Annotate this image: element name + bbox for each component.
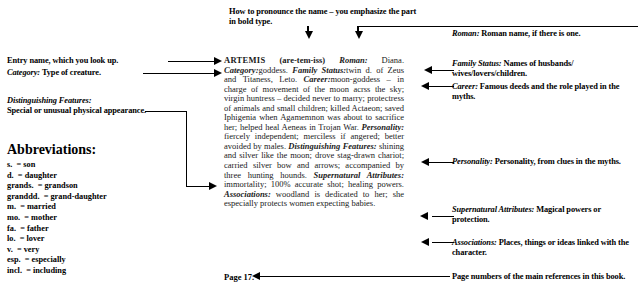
entry-pronunciation: (are-tem-iss) [280, 55, 326, 65]
entry-family-label: Family Status: [292, 65, 346, 75]
annotation-distinguishing-text: Special or unusual physical appearance. [7, 106, 157, 116]
annotation-distinguishing: Distinguishing Features: [7, 96, 207, 106]
leader-supernatural [432, 216, 454, 217]
abbreviations-title: Abbreviations: [7, 142, 96, 158]
list-item: s. = son [7, 160, 107, 171]
list-item: grands. = grandson [7, 181, 107, 192]
leader-roman-horizontal [357, 26, 638, 27]
leader-associations [432, 242, 454, 243]
list-item: m. = married [7, 202, 107, 213]
entry-supernatural-value: immortality; 100% accurate shot; healing… [224, 179, 404, 189]
annotation-personality-label: Personality: [452, 157, 493, 166]
arrow-right-entry-name [214, 57, 222, 65]
list-item: d. = daughter [7, 171, 107, 182]
list-item: fa. = father [7, 224, 107, 235]
leader-entry-name [168, 61, 215, 62]
entry-supernatural-label: Supernatural Attributes: [314, 170, 404, 180]
entry-distinguishing-label: Distinguishing Features: [288, 141, 376, 151]
annotation-roman: Roman: Roman name, if there is one. [452, 29, 638, 39]
arrow-left-family-status [424, 66, 432, 74]
annotation-family-label: Family Status: [452, 59, 502, 68]
diagram-page: How to pronounce the name – you emphasiz… [0, 0, 638, 306]
list-item: granddd. = grand-daughter [7, 192, 107, 203]
entry-page-number: Page 17. [224, 272, 254, 282]
leader-distinguishing-vertical [186, 111, 187, 187]
annotation-pronounce: How to pronounce the name – you emphasiz… [229, 7, 419, 26]
list-item: incl. = including [7, 266, 107, 277]
annotation-supernatural-label: Supernatural Attributes: [452, 205, 534, 214]
entry-category-value: goddess. [258, 65, 288, 75]
entry-associations-label: Associations: [224, 189, 271, 199]
arrow-right-category [214, 69, 222, 77]
arrow-left-associations [421, 238, 429, 246]
entry-career-label: Career: [304, 74, 331, 84]
arrow-left-personality [421, 158, 429, 166]
leader-category [143, 73, 215, 74]
leader-personality [429, 162, 454, 163]
arrow-left-career [421, 82, 429, 90]
annotation-personality: Personality: Personality, from clues in … [452, 157, 638, 167]
entry-roman-value: Diana. [368, 55, 404, 65]
annotation-career-label: Career: [452, 82, 478, 91]
list-item: v. = very [7, 245, 107, 256]
arrow-down-pronunciation [305, 31, 313, 39]
list-item: esp. = especially [7, 255, 107, 266]
leader-page-number [260, 276, 450, 277]
annotation-roman-text: Roman name, if there is one. [479, 29, 580, 38]
dictionary-entry: ARTEMIS (are-tem-iss) Roman: Diana. Cate… [224, 56, 404, 209]
arrow-down-roman [355, 31, 363, 39]
annotation-roman-label: Roman: [452, 29, 479, 38]
annotation-page-number-note: Page numbers of the main references in t… [452, 272, 638, 282]
entry-category-label: Category: [224, 65, 258, 75]
arrow-right-distinguishing [209, 182, 217, 190]
annotation-associations: Associations: Places, things or ideas li… [452, 238, 638, 257]
annotation-category-label: Category: [7, 68, 40, 77]
abbreviations-list: s. = son d. = daughter grands. = grandso… [7, 160, 107, 277]
annotation-supernatural: Supernatural Attributes: Magical powers … [452, 205, 638, 224]
annotation-career-text: Famous deeds and the role played in the … [452, 82, 619, 101]
annotation-personality-text: Personality, from clues in the myths. [493, 157, 621, 166]
entry-headword: ARTEMIS [224, 55, 265, 65]
leader-distinguishing-horizontal-bottom [186, 186, 211, 187]
leader-pronunciation-stem [307, 26, 308, 32]
list-item: lo. = lover [7, 234, 107, 245]
leader-career [429, 86, 454, 87]
entry-roman-label: Roman: [339, 55, 367, 65]
annotation-category-text: Type of creature. [40, 68, 101, 77]
entry-personality-label: Personality: [362, 122, 405, 132]
arrow-left-page-number [252, 272, 260, 280]
annotation-associations-label: Associations: [452, 238, 497, 247]
list-item: mo. = mother [7, 213, 107, 224]
arrow-left-supernatural [420, 212, 428, 220]
annotation-distinguishing-label: Distinguishing Features: [7, 96, 91, 105]
annotation-career: Career: Famous deeds and the role played… [452, 82, 638, 101]
leader-distinguishing-horizontal-top [145, 111, 187, 112]
annotation-family-status: Family Status: Names of husbands/ wives/… [452, 59, 638, 78]
leader-family-status [432, 70, 454, 71]
